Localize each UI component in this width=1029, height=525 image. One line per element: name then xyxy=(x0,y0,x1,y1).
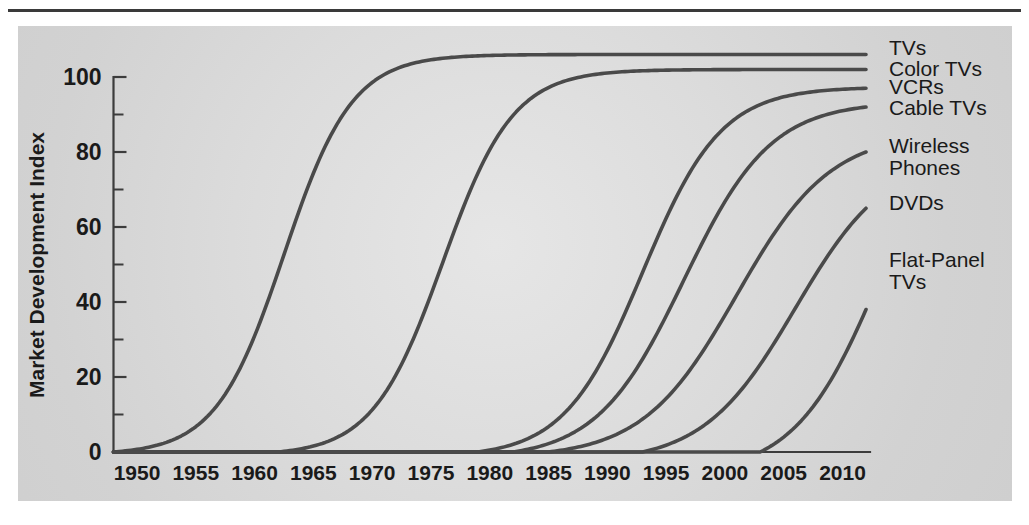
series-label: Cable TVs xyxy=(889,96,987,119)
y-tick-label: 20 xyxy=(76,364,102,390)
series-curve xyxy=(114,208,867,452)
series-label: TVs xyxy=(889,36,926,59)
y-tick-label: 80 xyxy=(76,139,102,165)
series-label: Flat-Panel xyxy=(889,248,985,271)
series-labels: TVsColor TVsVCRsCable TVsWirelessPhonesD… xyxy=(889,36,987,293)
x-tick-label: 1990 xyxy=(584,461,631,484)
figure-container: 020406080100 195019551960196519701975198… xyxy=(0,0,1029,525)
series-curve xyxy=(114,152,867,452)
x-tick-label: 2000 xyxy=(702,461,749,484)
series-curves xyxy=(114,55,867,453)
x-tick-label: 2005 xyxy=(760,461,807,484)
series-label: Wireless xyxy=(889,134,970,157)
y-axis-title: Market Development Index xyxy=(25,132,48,398)
y-tick-label: 0 xyxy=(89,439,102,465)
series-label: Phones xyxy=(889,156,960,179)
y-tick-label: 100 xyxy=(63,64,101,90)
y-tick-label: 60 xyxy=(76,214,102,240)
x-tick-label: 1950 xyxy=(114,461,161,484)
series-curve xyxy=(114,55,867,453)
x-tick-label: 1980 xyxy=(466,461,513,484)
series-curve xyxy=(114,310,867,453)
market-development-index-chart: 020406080100 195019551960196519701975198… xyxy=(0,0,1029,525)
x-tick-label: 1960 xyxy=(231,461,278,484)
x-tick-label: 1955 xyxy=(172,461,219,484)
series-label: DVDs xyxy=(889,191,944,214)
x-tick-label: 1965 xyxy=(290,461,337,484)
x-tick-label: 2010 xyxy=(819,461,866,484)
x-axis-tick-labels: 1950195519601965197019751980198519901995… xyxy=(114,461,866,484)
series-label: VCRs xyxy=(889,75,944,98)
y-axis-tick-labels: 020406080100 xyxy=(63,64,101,465)
x-tick-label: 1995 xyxy=(643,461,690,484)
y-tick-label: 40 xyxy=(76,289,102,315)
x-tick-label: 1985 xyxy=(525,461,572,484)
x-tick-label: 1970 xyxy=(349,461,396,484)
x-tick-label: 1975 xyxy=(408,461,455,484)
series-label: TVs xyxy=(889,270,926,293)
series-curve xyxy=(114,107,867,452)
